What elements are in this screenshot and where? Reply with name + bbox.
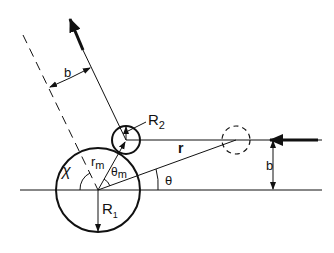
outgoing-trajectory-line [82,48,126,140]
chi-label: χ [60,162,71,179]
r2-label: R2 [148,111,165,131]
rm-label: rm [91,154,105,171]
theta-angle-arc [156,169,158,190]
outgoing-arrow [70,19,83,50]
theta-m-label: θm [111,165,127,180]
theta-m-angle-arc [104,179,110,186]
r-vector-label: r [178,140,184,156]
impact-parameter-dimension-top-2 [70,68,90,78]
scattering-diagram: b b R2 R1 rm θm r θ χ [0,0,334,253]
chi-angle-arc [80,173,90,190]
theta-label: θ [165,173,172,188]
r1-label: R1 [102,200,118,220]
b-label-right: b [266,158,273,173]
b-label-top: b [64,65,71,80]
